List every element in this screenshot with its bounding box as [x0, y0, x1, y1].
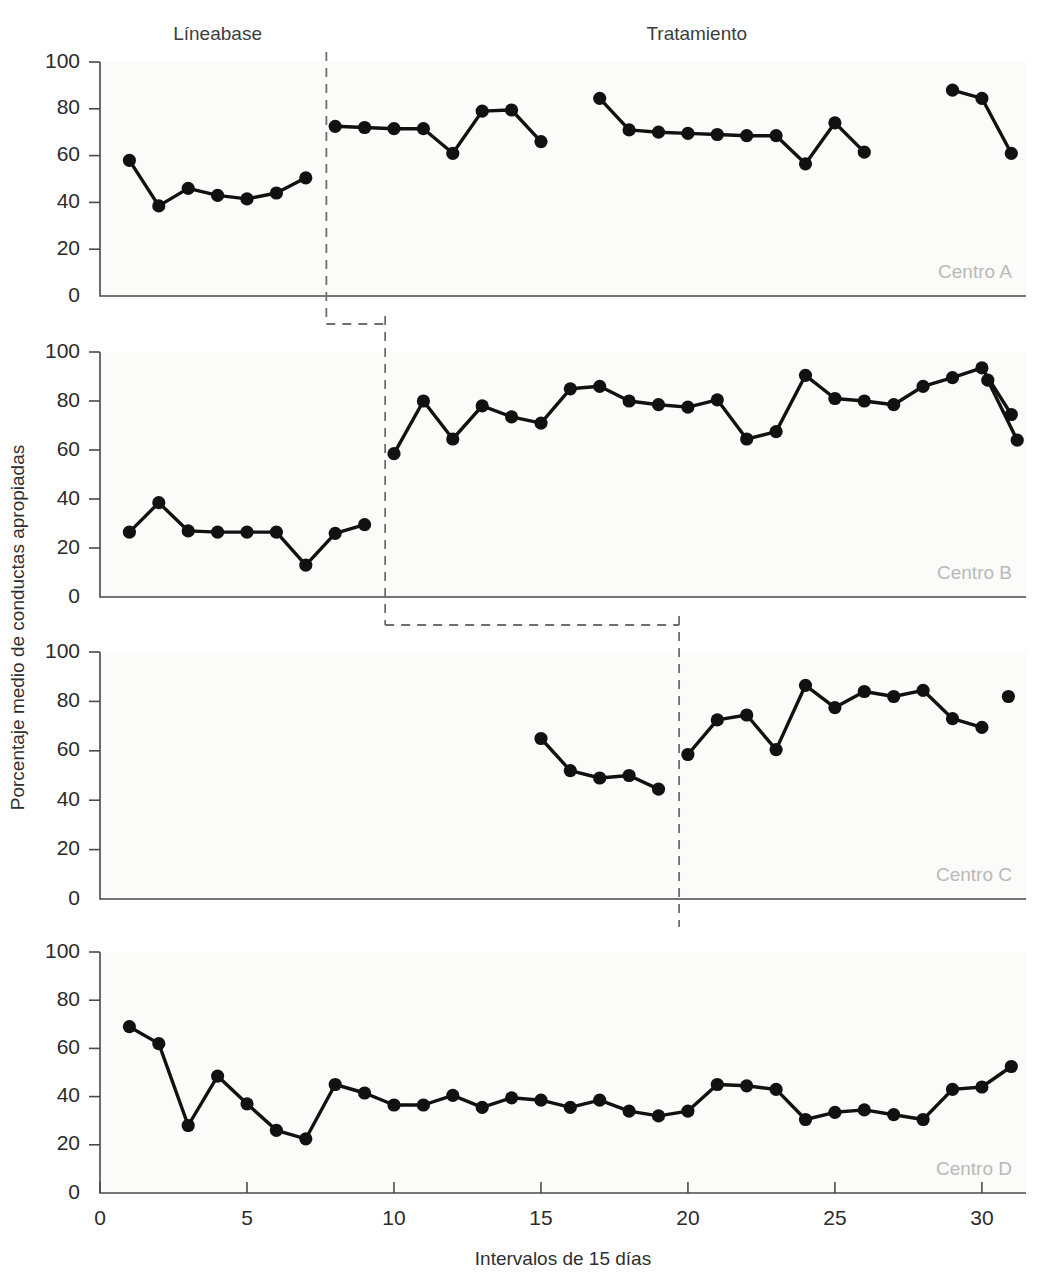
y-tick-label-3-60: 60 [57, 1035, 80, 1058]
data-point-p0-s1-6 [505, 103, 518, 116]
data-point-p3-s0-28 [946, 1083, 959, 1096]
data-point-p0-s3-0 [946, 84, 959, 97]
data-point-p3-s0-25 [858, 1103, 871, 1116]
data-point-p2-s0-2 [593, 771, 606, 784]
y-axis-title: Porcentaje medio de conductas apropiadas [7, 445, 28, 810]
y-tick-label-0-60: 60 [57, 142, 80, 165]
data-point-p2-s0-1 [564, 764, 577, 777]
y-tick-label-1-40: 40 [57, 486, 80, 509]
data-point-p1-s1-19 [946, 371, 959, 384]
y-tick-label-0-100: 100 [45, 49, 80, 72]
data-point-p1-s1-12 [740, 432, 753, 445]
data-point-p0-s1-7 [534, 135, 547, 148]
data-point-p1-s1-7 [593, 380, 606, 393]
y-tick-label-1-80: 80 [57, 388, 80, 411]
data-point-p2-s1-10 [975, 721, 988, 734]
data-point-p3-s0-9 [387, 1098, 400, 1111]
data-point-p3-s0-16 [593, 1094, 606, 1107]
y-tick-label-2-60: 60 [57, 737, 80, 760]
data-point-p1-s1-15 [828, 392, 841, 405]
y-tick-label-2-0: 0 [68, 886, 80, 909]
data-point-p0-s0-3 [211, 189, 224, 202]
y-tick-label-0-40: 40 [57, 189, 80, 212]
data-point-p1-s1-11 [711, 393, 724, 406]
data-point-p2-s1-3 [770, 743, 783, 756]
data-point-p0-s1-5 [476, 105, 489, 118]
data-point-p0-s2-3 [681, 127, 694, 140]
data-point-p1-s1-13 [770, 425, 783, 438]
y-tick-label-1-60: 60 [57, 437, 80, 460]
y-tick-label-2-80: 80 [57, 688, 80, 711]
data-point-p1-s0-7 [329, 527, 342, 540]
data-point-p1-s0-1 [152, 496, 165, 509]
data-point-p1-s1-6 [564, 382, 577, 395]
data-point-p1-s1-10 [681, 401, 694, 414]
phase-header-1: Tratamiento [646, 23, 747, 44]
data-point-p3-s0-15 [564, 1101, 577, 1114]
panel-background-3 [100, 952, 1026, 1193]
data-point-p2-s1-4 [799, 679, 812, 692]
data-point-p2-s0-3 [623, 769, 636, 782]
data-point-p3-s0-30 [1005, 1060, 1018, 1073]
data-point-p0-s2-6 [770, 129, 783, 142]
data-point-p1-s1-8 [623, 394, 636, 407]
data-point-p3-s0-4 [240, 1097, 253, 1110]
data-point-p3-s0-22 [770, 1083, 783, 1096]
data-point-p1-s1-4 [505, 410, 518, 423]
data-point-p1-s0-2 [182, 524, 195, 537]
data-point-p3-s0-13 [505, 1091, 518, 1104]
data-point-p2-s1-6 [858, 685, 871, 698]
data-point-p2-s1-8 [917, 684, 930, 697]
data-point-p3-s0-21 [740, 1079, 753, 1092]
data-point-p1-s1-3 [476, 399, 489, 412]
y-tick-label-1-20: 20 [57, 535, 80, 558]
data-point-p0-s1-1 [358, 121, 371, 134]
data-point-p1-s1-1 [417, 394, 430, 407]
x-tick-label-30: 30 [970, 1206, 993, 1229]
data-point-p3-s0-19 [681, 1105, 694, 1118]
data-point-p3-s0-8 [358, 1086, 371, 1099]
data-point-p1-s0-5 [270, 526, 283, 539]
data-point-p3-s0-6 [299, 1132, 312, 1145]
x-tick-label-10: 10 [382, 1206, 405, 1229]
data-point-p0-s1-2 [387, 122, 400, 135]
data-point-p0-s3-2 [1005, 147, 1018, 160]
data-point-p3-s0-11 [446, 1089, 459, 1102]
data-point-p0-s0-6 [299, 171, 312, 184]
data-point-p0-s1-3 [417, 122, 430, 135]
y-tick-label-2-100: 100 [45, 639, 80, 662]
panel-label-centro-d: Centro D [936, 1158, 1012, 1179]
data-point-p0-s2-7 [799, 157, 812, 170]
data-point-p1-s0-6 [299, 559, 312, 572]
y-tick-label-0-0: 0 [68, 283, 80, 306]
x-tick-label-20: 20 [676, 1206, 699, 1229]
data-point-p3-s0-29 [975, 1080, 988, 1093]
data-point-p3-s0-3 [211, 1070, 224, 1083]
data-point-p0-s1-0 [329, 120, 342, 133]
data-point-p2-s1-9 [946, 712, 959, 725]
y-tick-label-2-40: 40 [57, 787, 80, 810]
y-tick-label-3-0: 0 [68, 1180, 80, 1203]
data-point-p0-s2-1 [623, 123, 636, 136]
x-tick-label-15: 15 [529, 1206, 552, 1229]
data-point-p0-s0-5 [270, 186, 283, 199]
data-point-p1-s0-4 [240, 526, 253, 539]
data-point-p3-s0-27 [917, 1113, 930, 1126]
panel-background-1 [100, 352, 1026, 597]
phase-header-0: Líneabase [173, 23, 262, 44]
data-point-p3-s0-0 [123, 1020, 136, 1033]
data-point-p3-s0-20 [711, 1078, 724, 1091]
data-point-p0-s2-9 [858, 146, 871, 159]
y-tick-label-0-20: 20 [57, 236, 80, 259]
data-point-p0-s0-4 [240, 192, 253, 205]
data-point-p1-s0-3 [211, 526, 224, 539]
data-point-p3-s0-12 [476, 1101, 489, 1114]
data-point-p1-s1-17 [887, 398, 900, 411]
y-tick-label-3-100: 100 [45, 939, 80, 962]
data-point-p1-s1-20 [975, 361, 988, 374]
panel-background-0 [100, 62, 1026, 296]
data-point-p1-s2-1 [1011, 434, 1024, 447]
data-point-p1-s1-2 [446, 432, 459, 445]
data-point-p3-s0-24 [828, 1106, 841, 1119]
data-point-p2-s2-0 [1002, 690, 1015, 703]
